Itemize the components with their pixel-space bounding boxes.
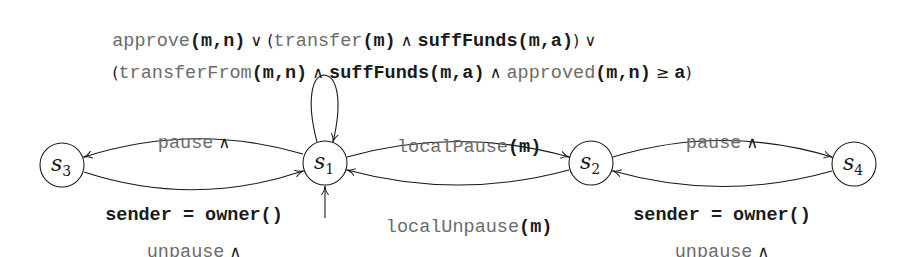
formula-term: a (674, 63, 685, 84)
edge-label-line1: unpause ∧ (84, 240, 304, 257)
edge-label-line1: pause ∧ (84, 131, 304, 156)
guard-event: unpause (147, 242, 225, 257)
edge-label-s2-s1: localUnpause(m) (348, 192, 568, 240)
formula-operator: ∧ (485, 63, 507, 82)
and-operator: ∧ (213, 133, 230, 152)
guard-argument: (m) (519, 217, 552, 238)
formula-operator: ≥ (651, 63, 675, 82)
formula-term: (m,n) (595, 63, 651, 84)
edge-label-s1-s2: localPause(m) (348, 112, 568, 160)
node-s1: s1 (303, 141, 347, 185)
formula-term: transferFrom (118, 63, 251, 84)
node-s3: s3 (40, 143, 84, 187)
formula-operator: ) (685, 63, 691, 82)
formula-term: suffFunds(m,a) (329, 63, 484, 84)
loop-guard-formula-line2: (transferFrom(m,n) ∧ suffFunds(m,a) ∧ ap… (90, 42, 692, 84)
guard-event: localPause (397, 137, 508, 158)
and-operator: ∧ (752, 242, 769, 257)
guard-event: pause (158, 133, 214, 154)
edge-label-line1: pause ∧ (612, 131, 832, 156)
formula-operator: ∧ (307, 63, 329, 82)
edge-label-line1: unpause ∧ (612, 240, 832, 257)
guard-event: unpause (675, 242, 753, 257)
formula-term: approved (506, 63, 595, 84)
and-operator: ∧ (224, 242, 241, 257)
guard-event: localUnpause (386, 217, 519, 238)
edge-label-s3-s1: unpause ∧ sender = owner() (84, 192, 304, 257)
and-operator: ∧ (741, 133, 758, 152)
node-s4: s4 (832, 142, 876, 186)
edge-s1-self-loop (311, 75, 338, 142)
formula-term: (m,n) (252, 63, 308, 84)
edge-s2-to-s1 (347, 170, 569, 185)
edge-label-s4-s2: unpause ∧ sender = owner() (612, 192, 832, 257)
guard-argument: (m) (508, 137, 541, 158)
node-s2: s2 (569, 141, 613, 185)
guard-event: pause (686, 133, 742, 154)
